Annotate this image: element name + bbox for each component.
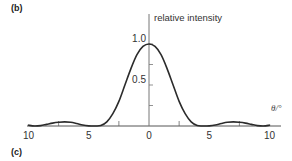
panel-label-c: (c): [11, 147, 22, 157]
y-tick-label: 0.5: [132, 74, 146, 85]
y-axis-title: relative intensity: [154, 12, 222, 23]
x-tick-label: 0: [146, 130, 152, 141]
x-tick-label: 5: [86, 130, 92, 141]
x-tick-label: 10: [264, 130, 276, 141]
x-tick-labels: 1050510: [23, 130, 276, 141]
x-tick-label: 5: [206, 130, 212, 141]
x-tick-label: 10: [23, 130, 35, 141]
y-axis-ticks: [149, 44, 153, 106]
diffraction-chart: 1050510 1.00.5 relative intensity θ/°: [0, 0, 292, 161]
x-axis-title: θ/°: [271, 103, 282, 113]
y-tick-label: 1.0: [132, 33, 146, 44]
